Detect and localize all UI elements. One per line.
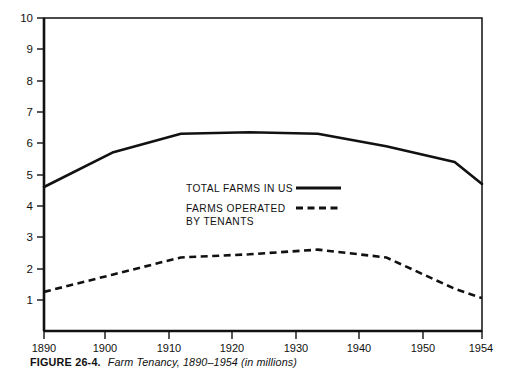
x-tick-label-1940: 1940 bbox=[347, 342, 371, 354]
x-tick-label-1930: 1930 bbox=[284, 342, 308, 354]
y-tick-label-8: 8 bbox=[27, 75, 33, 87]
y-tick-label-6: 6 bbox=[27, 137, 33, 149]
x-tick-label-1920: 1920 bbox=[220, 342, 244, 354]
axis-frame bbox=[44, 18, 482, 331]
legend-label-0-line1: TOTAL FARMS IN US bbox=[186, 183, 293, 194]
y-tick-label-4: 4 bbox=[27, 200, 34, 212]
x-tick-label-1954: 1954 bbox=[469, 342, 493, 354]
y-tick-label-10: 10 bbox=[20, 12, 33, 24]
y-tick-label-1: 1 bbox=[27, 294, 33, 306]
data-series-group bbox=[44, 132, 482, 298]
x-tick-label-1890: 1890 bbox=[32, 342, 56, 354]
y-tick-label-2: 2 bbox=[27, 263, 33, 275]
x-tick-label-1950: 1950 bbox=[411, 342, 435, 354]
x-tick-label-1910: 1910 bbox=[157, 342, 181, 354]
legend-label-1-line1: FARMS OPERATED bbox=[186, 203, 286, 214]
y-tick-labels: 10 9 8 7 6 5 4 3 2 1 bbox=[20, 12, 33, 306]
series-line-total-farms bbox=[44, 132, 482, 187]
legend-label-1-line2: BY TENANTS bbox=[186, 216, 254, 227]
series-line-tenant-farms bbox=[44, 250, 482, 299]
chart-legend: TOTAL FARMS IN US FARMS OPERATED BY TENA… bbox=[186, 183, 341, 227]
y-tick-label-5: 5 bbox=[27, 169, 33, 181]
figure-caption: FIGURE 26-4.Farm Tenancy, 1890–1954 (in … bbox=[30, 356, 500, 369]
figure-title: Farm Tenancy, 1890–1954 (in millions) bbox=[108, 356, 297, 368]
x-tick-label-1900: 1900 bbox=[93, 342, 117, 354]
figure-number: FIGURE 26-4. bbox=[30, 356, 101, 368]
line-chart: 10 9 8 7 6 5 4 3 2 1 1890 1900 1910 bbox=[0, 0, 506, 382]
y-tick-label-9: 9 bbox=[27, 43, 33, 55]
x-tick-labels: 1890 1900 1910 1920 1930 1940 1950 1954 bbox=[32, 342, 493, 354]
y-tick-label-7: 7 bbox=[27, 106, 33, 118]
chart-axes bbox=[44, 18, 482, 331]
figure-container: 10 9 8 7 6 5 4 3 2 1 1890 1900 1910 bbox=[0, 0, 506, 382]
y-tick-label-3: 3 bbox=[27, 231, 33, 243]
